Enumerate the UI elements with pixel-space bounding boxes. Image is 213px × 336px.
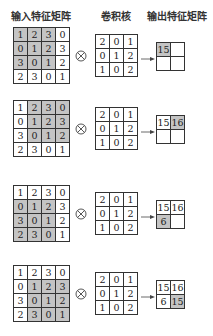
input-cell: 1 (28, 42, 42, 56)
input-cell: 3 (42, 28, 56, 42)
input-cell: 0 (56, 186, 70, 200)
input-cell: 3 (14, 129, 28, 143)
input-cell: 0 (28, 214, 42, 228)
input-cell: 2 (42, 42, 56, 56)
step-panel-3: 123001233012230120101210215166 (0, 185, 213, 245)
kernel-cell: 1 (96, 221, 110, 235)
kernel-cell: 0 (110, 108, 124, 122)
kernel-cell: 0 (96, 49, 110, 63)
kernel-cell: 0 (96, 122, 110, 136)
input-cell: 0 (14, 42, 28, 56)
kernel-cell: 1 (110, 122, 124, 136)
kernel-cell: 0 (96, 287, 110, 301)
kernel-cell: 1 (110, 287, 124, 301)
input-cell: 0 (28, 56, 42, 70)
input-cell: 1 (42, 214, 56, 228)
input-cell: 1 (28, 115, 42, 129)
input-cell: 3 (56, 280, 70, 294)
input-cell: 3 (42, 186, 56, 200)
input-cell: 3 (14, 294, 28, 308)
input-cell: 2 (56, 129, 70, 143)
input-cell: 1 (14, 186, 28, 200)
input-cell: 1 (28, 280, 42, 294)
input-cell: 0 (42, 70, 56, 84)
step-panel-4: 12300123301223012010121021516615 (0, 265, 213, 325)
output-matrix: 15166 (156, 200, 185, 229)
input-matrix: 1230012330122301 (13, 265, 70, 322)
kernel-cell: 2 (96, 35, 110, 49)
kernel-cell: 2 (124, 122, 138, 136)
arrow-right-icon (141, 214, 155, 220)
kernel-cell: 1 (124, 193, 138, 207)
output-cell (171, 57, 185, 71)
input-cell: 3 (28, 70, 42, 84)
input-cell: 0 (56, 266, 70, 280)
input-cell: 2 (28, 266, 42, 280)
output-cell: 6 (157, 215, 171, 229)
input-cell: 3 (28, 143, 42, 157)
kernel-cell: 0 (96, 207, 110, 221)
kernel-cell: 2 (96, 273, 110, 287)
output-cell (171, 215, 185, 229)
input-cell: 1 (14, 101, 28, 115)
input-cell: 2 (28, 28, 42, 42)
kernel-matrix: 201012102 (95, 192, 138, 235)
input-cell: 0 (28, 129, 42, 143)
convolution-operator-icon (75, 50, 87, 62)
input-cell: 0 (14, 200, 28, 214)
kernel-cell: 2 (124, 207, 138, 221)
kernel-cell: 0 (110, 35, 124, 49)
kernel-cell: 1 (124, 273, 138, 287)
kernel-cell: 2 (124, 221, 138, 235)
kernel-cell: 1 (124, 35, 138, 49)
input-cell: 3 (42, 266, 56, 280)
input-cell: 2 (42, 115, 56, 129)
kernel-cell: 0 (110, 193, 124, 207)
kernel-cell: 0 (110, 301, 124, 315)
convolution-operator-icon (75, 208, 87, 220)
output-cell: 16 (171, 281, 185, 295)
input-cell: 1 (14, 266, 28, 280)
output-cell (157, 57, 171, 71)
input-cell: 0 (56, 28, 70, 42)
input-cell: 2 (14, 308, 28, 322)
kernel-cell: 1 (96, 63, 110, 77)
input-matrix: 1230012330122301 (13, 100, 70, 157)
input-cell: 2 (56, 294, 70, 308)
kernel-cell: 1 (124, 108, 138, 122)
kernel-matrix: 201012102 (95, 34, 138, 77)
output-cell: 16 (171, 116, 185, 130)
kernel-cell: 2 (124, 63, 138, 77)
input-cell: 2 (42, 200, 56, 214)
arrow-right-icon (141, 56, 155, 62)
input-cell: 1 (56, 308, 70, 322)
input-cell: 1 (42, 294, 56, 308)
kernel-cell: 2 (96, 108, 110, 122)
output-cell (171, 130, 185, 144)
kernel-matrix: 201012102 (95, 107, 138, 150)
arrow-right-icon (141, 129, 155, 135)
input-cell: 1 (42, 129, 56, 143)
input-cell: 3 (14, 214, 28, 228)
input-cell: 3 (56, 200, 70, 214)
arrow-right-icon (141, 294, 155, 300)
output-cell (157, 130, 171, 144)
step-panel-2: 12300123301223012010121021516 (0, 100, 213, 160)
kernel-cell: 2 (124, 49, 138, 63)
input-cell: 2 (28, 186, 42, 200)
input-cell: 0 (56, 101, 70, 115)
input-cell: 1 (14, 28, 28, 42)
output-cell: 15 (171, 295, 185, 309)
convolution-operator-icon (75, 288, 87, 300)
input-cell: 2 (56, 56, 70, 70)
kernel-cell: 2 (124, 287, 138, 301)
input-cell: 2 (14, 70, 28, 84)
input-cell: 2 (14, 228, 28, 242)
input-cell: 0 (14, 280, 28, 294)
output-cell: 16 (171, 201, 185, 215)
input-matrix-header: 输入特征矩阵 (11, 11, 71, 23)
input-cell: 1 (28, 200, 42, 214)
input-cell: 3 (28, 228, 42, 242)
input-matrix: 1230012330122301 (13, 27, 70, 84)
kernel-cell: 0 (110, 273, 124, 287)
